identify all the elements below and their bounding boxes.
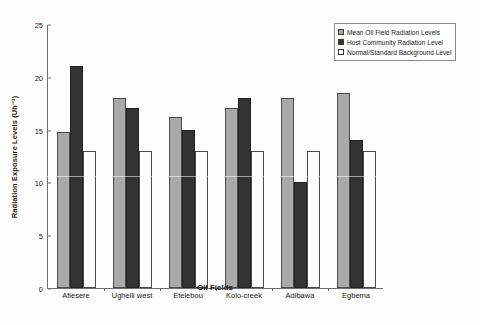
x-axis-tick-mark xyxy=(328,288,329,291)
legend-item-label: Normal/Standard Background Level xyxy=(347,49,451,56)
bar-group xyxy=(281,25,320,288)
bar xyxy=(307,151,320,288)
bar-chart: Radiation Exposure Levels (Uh⁻¹) 0510152… xyxy=(0,0,480,325)
y-axis-tick-label: 20 xyxy=(35,73,48,82)
y-axis-tick-mark xyxy=(48,77,51,78)
y-axis-title: Radiation Exposure Levels (Uh⁻¹) xyxy=(10,96,19,219)
bar xyxy=(337,93,350,288)
legend-swatch-icon xyxy=(338,29,344,35)
bar xyxy=(70,66,83,288)
x-axis-tick-label: Adibawa xyxy=(286,291,315,300)
y-axis-tick-mark xyxy=(48,183,51,184)
bar-group xyxy=(169,25,208,288)
legend-item-label: Host Community Radiation Level xyxy=(347,39,443,46)
legend-item: Normal/Standard Background Level xyxy=(338,47,451,57)
y-axis-tick-mark xyxy=(48,25,51,26)
bar xyxy=(238,98,251,288)
legend-swatch-icon xyxy=(338,39,344,45)
y-axis-tick-label: 5 xyxy=(39,232,48,241)
bar-group xyxy=(225,25,264,288)
plot-area: 0510152025AfiesereUghelli westEtelebouKo… xyxy=(47,25,383,289)
bar xyxy=(83,151,96,288)
y-axis-tick-label: 0 xyxy=(39,285,48,294)
bar xyxy=(281,98,294,288)
y-axis-tick-mark xyxy=(48,236,51,237)
bar xyxy=(294,182,307,288)
bar xyxy=(350,140,363,288)
x-axis-tick-label: Egbema xyxy=(342,291,370,300)
y-axis-tick-label: 15 xyxy=(35,126,48,135)
bar xyxy=(363,151,376,288)
bar xyxy=(139,151,152,288)
bar xyxy=(251,151,264,288)
legend-item-label: Mean Oil Field Radiation Levels xyxy=(347,29,440,36)
x-axis-tick-label: Ughelli west xyxy=(112,291,152,300)
legend-swatch-icon xyxy=(338,49,344,55)
x-axis-tick-mark xyxy=(104,288,105,291)
legend: Mean Oil Field Radiation Levels Host Com… xyxy=(334,23,456,61)
bar xyxy=(195,151,208,288)
bar xyxy=(182,130,195,288)
y-axis-tick-label: 25 xyxy=(35,21,48,30)
y-axis-tick-mark xyxy=(48,130,51,131)
bar xyxy=(126,108,139,288)
legend-item: Mean Oil Field Radiation Levels xyxy=(338,27,451,37)
bar-group xyxy=(57,25,96,288)
x-axis-title: Oil Fields xyxy=(197,283,233,292)
x-axis-tick-label: Etelebou xyxy=(173,291,203,300)
bar xyxy=(57,132,70,288)
x-axis-tick-mark xyxy=(272,288,273,291)
x-axis-tick-mark xyxy=(160,288,161,291)
legend-item: Host Community Radiation Level xyxy=(338,37,451,47)
y-axis-tick-label: 10 xyxy=(35,179,48,188)
x-axis-tick-label: Kolo-creek xyxy=(226,291,262,300)
bar-group xyxy=(337,25,376,288)
bar-group xyxy=(113,25,152,288)
y-axis-tick-mark xyxy=(48,289,51,290)
bar xyxy=(225,108,238,288)
bar xyxy=(169,117,182,288)
x-axis-tick-label: Afiesere xyxy=(62,291,90,300)
bar xyxy=(113,98,126,288)
